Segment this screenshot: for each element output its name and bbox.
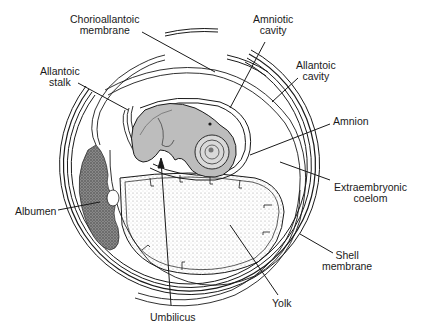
embryo (132, 103, 237, 177)
label-allantoic-stalk: Allantoic stalk (40, 66, 80, 88)
leader-allantoic-cavity (272, 78, 298, 102)
label-amnion: Amnion (333, 116, 369, 127)
leader-amniotic-cavity (230, 42, 265, 108)
egg-diagram (0, 0, 421, 335)
umbilicus-arrowhead (158, 158, 164, 168)
yolk-sac (120, 173, 284, 275)
label-extraembryonic-coelom: Extraembryonic coelom (334, 182, 407, 204)
label-chorioallantoic-membrane: Chorioallantoic membrane (70, 14, 139, 36)
label-amniotic-cavity: Amniotic cavity (253, 14, 293, 36)
leader-chorioallantoic-membrane (142, 32, 215, 72)
label-yolk: Yolk (272, 298, 291, 309)
label-albumen: Albumen (15, 206, 56, 217)
label-shell-membrane: Shell membrane (322, 250, 372, 272)
label-allantoic-cavity: Allantoic cavity (296, 60, 336, 82)
leader-amnion (250, 124, 330, 155)
albumen (79, 145, 119, 250)
label-umbilicus: Umbilicus (150, 312, 196, 323)
